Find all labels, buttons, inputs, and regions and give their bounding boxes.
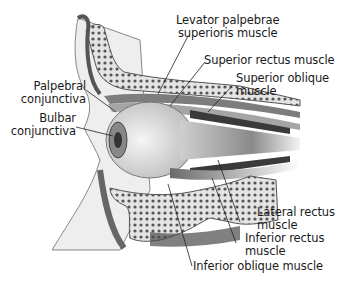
label-levator-palpebrae: Levator palpebrae superioris muscle xyxy=(176,14,279,40)
label-line: Superior rectus muscle xyxy=(204,54,335,67)
label-line: Inferior oblique muscle xyxy=(193,260,323,273)
label-superior-oblique: Superior oblique muscle xyxy=(236,72,329,98)
label-line: conjunctiva xyxy=(8,93,86,106)
label-inferior-rectus: Inferior rectus muscle xyxy=(245,232,324,258)
label-superior-rectus: Superior rectus muscle xyxy=(204,54,335,67)
label-bulbar-conjunctiva: Bulbar conjunctiva xyxy=(8,112,76,138)
label-line: muscle xyxy=(236,85,329,98)
label-line: superioris muscle xyxy=(176,27,279,40)
label-line: conjunctiva xyxy=(8,125,76,138)
label-palpebral-conjunctiva: Palpebral conjunctiva xyxy=(8,80,86,106)
label-line: muscle xyxy=(245,245,324,258)
label-inferior-oblique: Inferior oblique muscle xyxy=(193,260,323,273)
label-lateral-rectus: Lateral rectus muscle xyxy=(257,206,335,232)
